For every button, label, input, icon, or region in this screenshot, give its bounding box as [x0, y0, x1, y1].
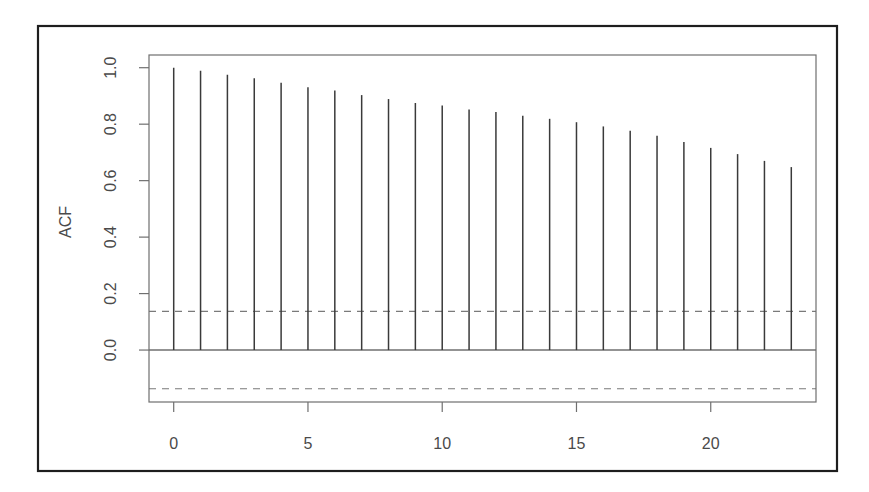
x-tick-label: 10 — [433, 435, 451, 452]
y-tick-label: 0.0 — [102, 339, 119, 361]
outer-frame — [38, 26, 837, 471]
x-tick-label: 5 — [304, 435, 313, 452]
y-tick-label: 1.0 — [102, 56, 119, 78]
acf-chart-svg: 051015200.00.20.40.60.81.0 ACF — [0, 0, 869, 492]
y-tick-label: 0.4 — [102, 226, 119, 248]
y-axis-label: ACF — [57, 206, 74, 238]
y-tick-label: 0.6 — [102, 169, 119, 191]
x-tick-label: 15 — [568, 435, 586, 452]
acf-chart-figure: 051015200.00.20.40.60.81.0 ACF — [0, 0, 869, 492]
x-tick-label: 0 — [169, 435, 178, 452]
y-tick-label: 0.8 — [102, 113, 119, 135]
y-tick-label: 0.2 — [102, 282, 119, 304]
x-tick-label: 20 — [702, 435, 720, 452]
